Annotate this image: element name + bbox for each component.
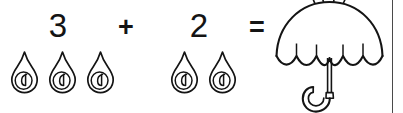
equals-operator: = (243, 14, 271, 41)
umbrella-icon (271, 0, 389, 113)
second-addend-numeral: 2 (185, 9, 213, 42)
vertical-rule (392, 0, 393, 113)
raindrop-icon (10, 50, 39, 99)
first-addend-numeral: 3 (44, 9, 72, 42)
worksheet-canvas: 3 + 2 = (0, 0, 403, 113)
first-addend-raindrop-row (10, 50, 115, 99)
raindrop-icon (170, 50, 199, 99)
second-addend-raindrop-row (170, 50, 237, 99)
raindrop-icon (208, 50, 237, 99)
plus-operator: + (112, 14, 140, 41)
raindrop-icon (86, 50, 115, 99)
raindrop-icon (48, 50, 77, 99)
